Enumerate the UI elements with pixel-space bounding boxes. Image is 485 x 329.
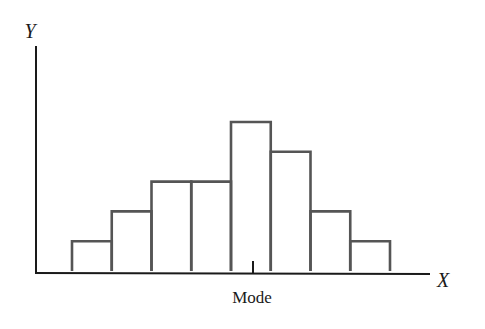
histogram-bar <box>311 211 351 271</box>
histogram-bar <box>191 182 231 271</box>
histogram-bar <box>350 241 390 271</box>
histogram-bar <box>112 211 152 271</box>
x-axis-line <box>35 273 430 274</box>
x-axis-label: X <box>436 269 450 291</box>
histogram-chart: Y X Mode <box>0 0 485 329</box>
histogram-bars <box>72 122 390 271</box>
histogram-bar <box>231 122 271 271</box>
mode-label: Mode <box>232 288 272 307</box>
histogram-bar <box>72 241 112 271</box>
histogram-bar <box>152 182 192 271</box>
histogram-bar <box>271 152 311 271</box>
y-axis-label: Y <box>24 20 37 42</box>
